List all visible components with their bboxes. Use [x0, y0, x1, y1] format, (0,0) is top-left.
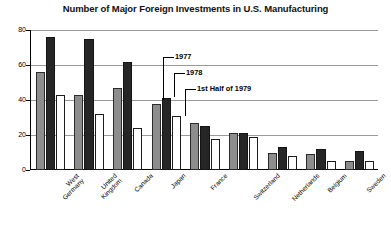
bar-group [345, 30, 375, 170]
x-axis-label: Japan [170, 172, 188, 190]
bar[interactable] [278, 147, 287, 170]
chart-title: Number of Major Foreign Investments in U… [0, 3, 391, 14]
bar[interactable] [95, 114, 104, 170]
bar-group [152, 30, 182, 170]
bar-group [113, 30, 143, 170]
y-tick-label-40: 40 [2, 96, 26, 103]
x-axis-label: France [209, 172, 229, 192]
bar[interactable] [172, 116, 181, 170]
bar[interactable] [239, 133, 248, 170]
plot-area [30, 30, 378, 170]
bar[interactable] [211, 139, 220, 171]
bar[interactable] [133, 128, 142, 170]
bar[interactable] [365, 161, 374, 170]
bar[interactable] [306, 154, 315, 170]
bar-group [229, 30, 259, 170]
bar[interactable] [288, 156, 297, 170]
y-tick-label-0: 0 [2, 166, 26, 173]
bar[interactable] [249, 137, 258, 170]
bar[interactable] [46, 37, 55, 170]
y-tick-label-80: 80 [2, 26, 26, 33]
x-axis-label: Belgium [326, 172, 348, 194]
bar-groups [30, 30, 378, 170]
bar-group [74, 30, 104, 170]
bar-group [36, 30, 66, 170]
bar[interactable] [56, 95, 65, 170]
bar[interactable] [200, 126, 209, 170]
bar[interactable] [152, 104, 161, 171]
bar-group [306, 30, 336, 170]
bar[interactable] [162, 98, 171, 170]
chart-container: Number of Major Foreign Investments in U… [0, 0, 391, 233]
y-tick-label-60: 60 [2, 61, 26, 68]
y-tick-mark-80 [26, 30, 30, 31]
x-axis-label: Sweden [365, 172, 387, 194]
x-axis-labels: West GermanyUnited KingdomCanadaJapanFra… [30, 172, 378, 230]
bar[interactable] [113, 88, 122, 170]
bar[interactable] [355, 151, 364, 170]
x-axis-label: United Kingdom [95, 172, 124, 201]
bar[interactable] [123, 62, 132, 171]
x-axis-label: Canada [132, 172, 154, 194]
y-tick-label-20: 20 [2, 131, 26, 138]
bar[interactable] [84, 39, 93, 170]
x-axis-label: West Germany [56, 172, 86, 202]
bar[interactable] [327, 161, 336, 170]
x-axis-label: Netherlands [291, 172, 321, 202]
bar[interactable] [229, 133, 238, 170]
y-tick-mark-0 [26, 170, 30, 171]
bar[interactable] [345, 161, 354, 170]
y-tick-mark-20 [26, 135, 30, 136]
bar-group [268, 30, 298, 170]
y-tick-mark-40 [26, 100, 30, 101]
x-axis-label: Switzerland [252, 172, 281, 201]
bar[interactable] [36, 72, 45, 170]
bar[interactable] [74, 95, 83, 170]
bar[interactable] [190, 123, 199, 170]
y-tick-mark-60 [26, 65, 30, 66]
bar-group [190, 30, 220, 170]
bar[interactable] [316, 149, 325, 170]
bar[interactable] [268, 153, 277, 171]
